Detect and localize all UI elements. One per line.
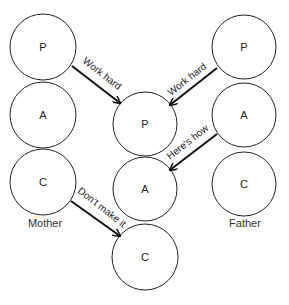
center-parent-label: P [141, 118, 148, 130]
center-child-label: C [141, 251, 149, 263]
father-parent-label: P [240, 41, 247, 53]
mother-parent-label: P [39, 41, 46, 53]
mother-adult-label: A [39, 109, 47, 121]
mother-caption: Mother [28, 217, 63, 229]
mother-child-label: C [39, 176, 47, 188]
arrow-label-work-hard-left: Work hard [81, 55, 124, 92]
father-adult-label: A [240, 109, 248, 121]
father-group: P A C Father [212, 15, 276, 229]
pac-diagram: P A C Mother P A C P A C Father Work har… [0, 0, 289, 305]
mother-group: P A C Mother [10, 14, 76, 229]
father-child-label: C [240, 178, 248, 190]
child-person-group: P A C [112, 92, 178, 290]
center-adult-label: A [141, 183, 149, 195]
father-caption: Father [229, 217, 261, 229]
